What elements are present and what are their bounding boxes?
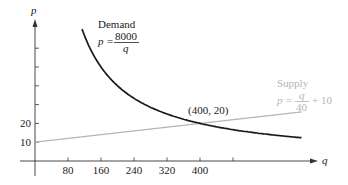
supply-label: Supply (277, 77, 309, 89)
x-axis-arrow-icon (310, 159, 318, 164)
x-tick-label: 400 (192, 164, 209, 176)
axes (20, 19, 318, 176)
equilibrium-label: (400, 20) (188, 104, 229, 117)
demand-eq-den: q (123, 42, 129, 54)
supply-eq-num: q (299, 89, 305, 101)
x-tick-label: 320 (159, 164, 176, 176)
demand-eq-num: 8000 (115, 30, 138, 42)
y-axis-label: p (30, 4, 37, 16)
supply-demand-chart: 801602403204001020 p q Demand p = 8000 q… (0, 0, 348, 185)
labels: p q Demand p = 8000 q Supply p = q 40 + … (30, 4, 332, 166)
demand-curve (82, 29, 302, 138)
demand-eq-lhs: p = (97, 35, 114, 47)
x-tick-label: 240 (126, 164, 143, 176)
supply-line (35, 112, 302, 142)
y-tick-label: 20 (20, 117, 32, 129)
x-axis-label: q (322, 154, 328, 166)
x-tick-label: 80 (63, 164, 75, 176)
supply-eq-den: 40 (296, 101, 308, 113)
supply-eq-lhs: p = (276, 94, 293, 106)
y-axis-arrow-icon (33, 19, 38, 27)
x-tick-label: 160 (93, 164, 110, 176)
curves (35, 29, 302, 142)
supply-eq-tail: + 10 (312, 94, 332, 106)
y-tick-label: 10 (20, 136, 32, 148)
demand-label: Demand (98, 18, 136, 30)
